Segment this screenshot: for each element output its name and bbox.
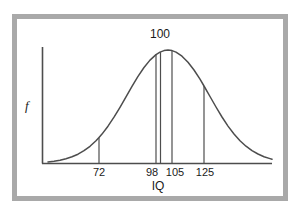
x-tick-label-72: 72 bbox=[93, 167, 105, 178]
x-tick-label-125: 125 bbox=[196, 167, 214, 178]
y-axis-title: f bbox=[25, 99, 29, 112]
x-tick-label-105: 105 bbox=[166, 167, 184, 178]
x-axis-title: IQ bbox=[152, 180, 165, 192]
peak-value-label: 100 bbox=[150, 28, 170, 40]
figure-root: 100 72 98 105 125 IQ f bbox=[0, 0, 301, 213]
x-tick-label-98: 98 bbox=[146, 167, 158, 178]
